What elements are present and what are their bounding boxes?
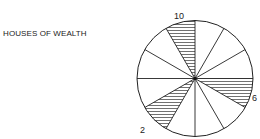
center-point	[193, 77, 196, 80]
house-label-2: 2	[140, 125, 145, 135]
house-cusp-line	[195, 28, 224, 78]
house-label-6: 6	[252, 93, 257, 103]
house-wheel: 10 6 2	[0, 0, 260, 139]
house-label-10: 10	[174, 11, 184, 21]
house-cusp-line	[195, 50, 245, 79]
